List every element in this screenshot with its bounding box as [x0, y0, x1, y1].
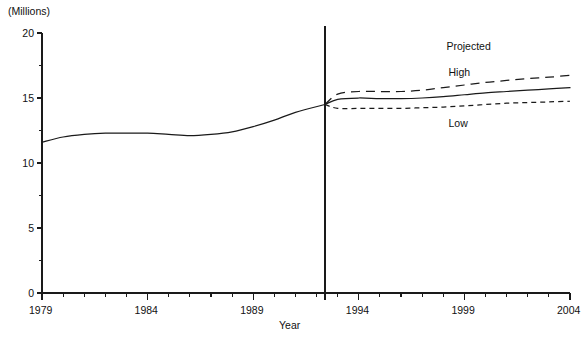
y-tick-label-10: 10 [4, 158, 34, 169]
chart-container: (Millions) 05101520 19791984198919941999… [0, 0, 583, 338]
chart-series-lines [42, 75, 570, 142]
x-tick-label-1979: 1979 [29, 305, 52, 316]
annotation-high: High [449, 67, 471, 78]
y-tick-label-20: 20 [4, 28, 34, 39]
chart-ticks [37, 33, 570, 300]
y-tick-label-15: 15 [4, 93, 34, 104]
x-tick-label-1994: 1994 [346, 305, 369, 316]
chart-axes [42, 33, 570, 293]
x-tick-label-1989: 1989 [240, 305, 263, 316]
x-tick-label-1999: 1999 [451, 305, 474, 316]
annotation-projected: Projected [446, 41, 490, 52]
x-axis-title: Year [279, 320, 300, 331]
x-tick-label-1984: 1984 [135, 305, 158, 316]
x-tick-label-2004: 2004 [557, 305, 580, 316]
chart-plot-area [0, 0, 583, 338]
y-tick-label-5: 5 [4, 223, 34, 234]
annotation-low: Low [449, 118, 468, 129]
y-tick-label-0: 0 [4, 288, 34, 299]
